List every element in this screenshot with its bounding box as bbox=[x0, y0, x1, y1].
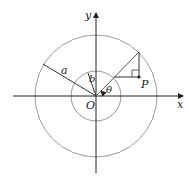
x-axis-label: x bbox=[177, 98, 184, 111]
inner-radius-label: b bbox=[89, 73, 95, 84]
concentric-circles-diagram: y x O a b θ P bbox=[0, 0, 189, 180]
point-p-label: P bbox=[140, 78, 149, 91]
angle-label: θ bbox=[106, 84, 112, 95]
angle-ray bbox=[96, 52, 139, 96]
y-axis-label: y bbox=[84, 9, 92, 22]
origin-label: O bbox=[86, 99, 95, 112]
outer-radius-label: a bbox=[61, 64, 68, 77]
diagram-canvas: y x O a b θ P bbox=[0, 0, 189, 180]
angle-arc-icon bbox=[101, 91, 103, 96]
